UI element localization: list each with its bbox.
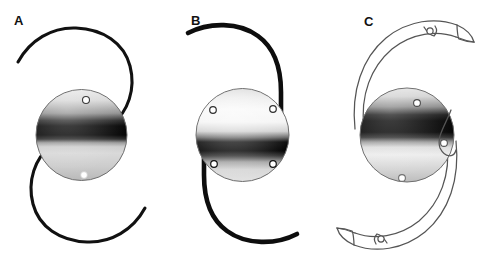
positioning-hole-mid-temporal [441,140,448,147]
figure-intraocular-lens-designs: A [0,0,487,266]
panel-label-b: B [191,14,200,27]
haptic-superior-tip-hole [427,28,433,34]
panel-label-a: A [14,14,23,27]
panel-b: B [161,0,324,266]
positioning-hole-superior-temporal [270,106,277,113]
panel-a-illustration [0,0,163,266]
positioning-hole-inferior [399,175,406,182]
positioning-hole-superior-nasal [210,107,217,114]
optic-sheen [37,90,127,180]
positioning-hole-inferior [81,172,88,179]
panel-label-c: C [364,15,373,28]
positioning-hole-superior [414,100,421,107]
panel-c-illustration [324,0,487,266]
positioning-hole-superior [83,97,90,104]
panel-a: A [0,0,163,266]
haptic-inferior-tip-hole [378,236,384,242]
positioning-hole-inferior-nasal [211,161,218,168]
panel-c: C [324,0,487,266]
positioning-hole-inferior-temporal [270,161,277,168]
optic-sheen [361,89,454,182]
panel-b-illustration [161,0,324,266]
